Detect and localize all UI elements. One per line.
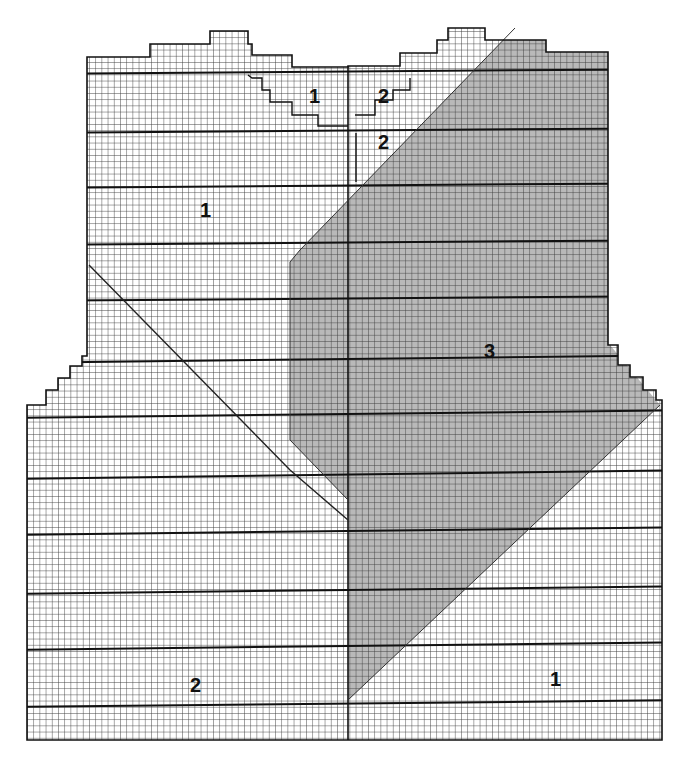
region-label-2-neck: 2 [378,132,389,152]
region-label-1-lower: 1 [550,669,561,689]
region-label-3: 3 [484,341,495,361]
sweater-body [0,0,697,781]
region-label-1-left: 1 [200,200,211,220]
region-label-2-upper: 2 [378,86,389,106]
region-label-1-upper: 1 [309,86,320,106]
knitting-chart [0,0,697,781]
region-label-2-lower: 2 [190,675,201,695]
